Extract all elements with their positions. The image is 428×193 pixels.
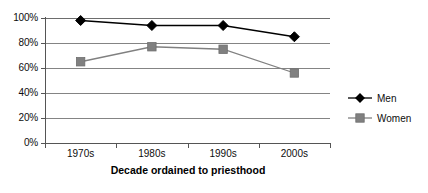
y-tick-label: 100%	[0, 12, 38, 23]
x-tick-mark	[45, 143, 46, 148]
y-tick-label: 40%	[0, 87, 38, 98]
data-point	[219, 45, 227, 53]
y-tick-label: 80%	[0, 37, 38, 48]
x-tick-label: 1990s	[188, 148, 258, 159]
x-tick-mark	[116, 143, 117, 148]
x-tick-mark	[188, 143, 189, 148]
y-tick-label: 0%	[0, 137, 38, 148]
chart-legend: MenWomen	[347, 88, 425, 128]
data-point	[76, 58, 84, 66]
legend-label: Men	[373, 93, 396, 104]
data-point	[289, 32, 299, 42]
data-point	[147, 21, 157, 31]
chart-figure: 100%80%60%40%20%0% 1970s1980s1990s2000s …	[0, 0, 428, 193]
data-point	[76, 16, 86, 26]
data-point	[218, 21, 228, 31]
series-line	[81, 47, 295, 73]
x-tick-label: 1970s	[46, 148, 116, 159]
plot-area	[45, 18, 330, 143]
data-point	[148, 43, 156, 51]
data-point	[290, 69, 298, 77]
x-tick-mark	[330, 143, 331, 148]
x-axis-title: Decade ordained to priesthood	[45, 164, 331, 176]
y-tick-label: 20%	[0, 112, 38, 123]
x-tick-mark	[259, 143, 260, 148]
y-tick-label: 60%	[0, 62, 38, 73]
legend-item-women[interactable]: Women	[347, 108, 425, 128]
legend-item-men[interactable]: Men	[347, 88, 425, 108]
legend-label: Women	[373, 113, 411, 124]
x-tick-label: 2000s	[259, 148, 329, 159]
series-layer	[45, 18, 330, 143]
series-line	[81, 21, 295, 37]
square-marker-icon	[347, 111, 373, 125]
diamond-marker-icon	[347, 91, 373, 105]
y-axis-line	[45, 17, 46, 144]
series-women	[76, 43, 298, 78]
x-tick-label: 1980s	[117, 148, 187, 159]
series-men	[76, 16, 300, 42]
